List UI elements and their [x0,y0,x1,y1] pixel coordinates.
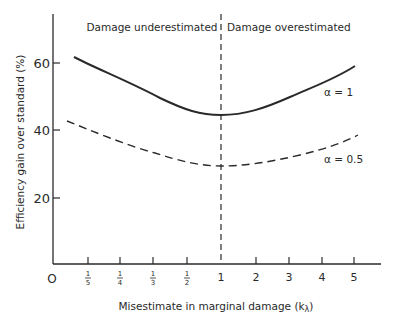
x-axis-title: Misestimate in marginal damage (kλ) [119,300,314,314]
x-tick-1-4: 1 4 [117,270,123,287]
x-tick-5: 5 [351,271,358,284]
svg-text:1: 1 [118,270,122,278]
region-label-overestimated: Damage overestimated [227,21,351,33]
y-tick-60: 60 [33,56,50,71]
svg-text:1: 1 [151,270,155,278]
series-alpha-0-5 [67,121,358,166]
x-tick-0: O [47,272,56,286]
x-tick-1-3: 1 3 [150,270,156,287]
x-tick-1-2: 1 2 [184,270,190,287]
svg-text:4: 4 [118,279,123,287]
svg-text:1: 1 [185,270,189,278]
x-tick-3: 3 [286,271,293,284]
y-tick-20: 20 [33,191,50,206]
svg-text:2: 2 [185,279,189,287]
svg-text:1: 1 [86,270,90,278]
label-alpha-0-5: α = 0.5 [324,153,363,165]
y-axis-title: Efficiency gain over standard (%) [14,55,26,230]
label-alpha-1: α = 1 [324,86,353,98]
y-ticks: 60 40 20 [33,56,60,206]
series-alpha-1 [74,57,355,115]
svg-text:3: 3 [151,279,155,287]
x-tick-4: 4 [319,271,326,284]
svg-text:5: 5 [86,279,90,287]
y-tick-40: 40 [33,123,50,138]
chart: 60 40 20 O 1 5 1 4 1 3 1 2 1 2 3 4 5 [0,0,395,324]
x-tick-1: 1 [218,271,225,284]
region-label-underestimated: Damage underestimated [86,21,217,33]
x-tick-2: 2 [253,271,260,284]
x-tick-1-5: 1 5 [85,270,91,287]
